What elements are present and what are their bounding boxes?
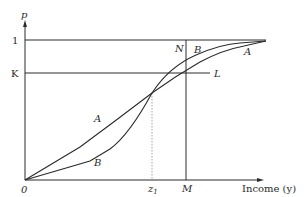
y-tick-one: 1 <box>12 35 18 46</box>
label-curve-b-lower: B <box>93 157 101 168</box>
x-tick-m: M <box>181 183 193 194</box>
curve-b <box>25 41 266 180</box>
x-axis-label: Income (y) <box>242 183 296 194</box>
curve-a <box>25 41 266 180</box>
y-tick-k: K <box>11 68 19 79</box>
y-axis <box>23 20 27 180</box>
label-curve-a-lower: A <box>93 113 101 124</box>
origin-label: 0 <box>21 184 28 195</box>
label-curve-a-upper: A <box>243 46 251 57</box>
y-axis-label: p <box>21 9 28 20</box>
x-tick-z1: z1 <box>147 183 158 196</box>
y-axis-arrow-icon <box>23 20 27 27</box>
x-axis <box>25 178 264 182</box>
label-n: N <box>174 43 185 54</box>
x-axis-arrow-icon <box>257 178 264 182</box>
label-curve-b-upper: B <box>193 44 201 55</box>
label-l: L <box>213 68 221 79</box>
cdf-diagram: p 1 K 0 z1 M Income (y) N L A A B B <box>0 0 306 197</box>
